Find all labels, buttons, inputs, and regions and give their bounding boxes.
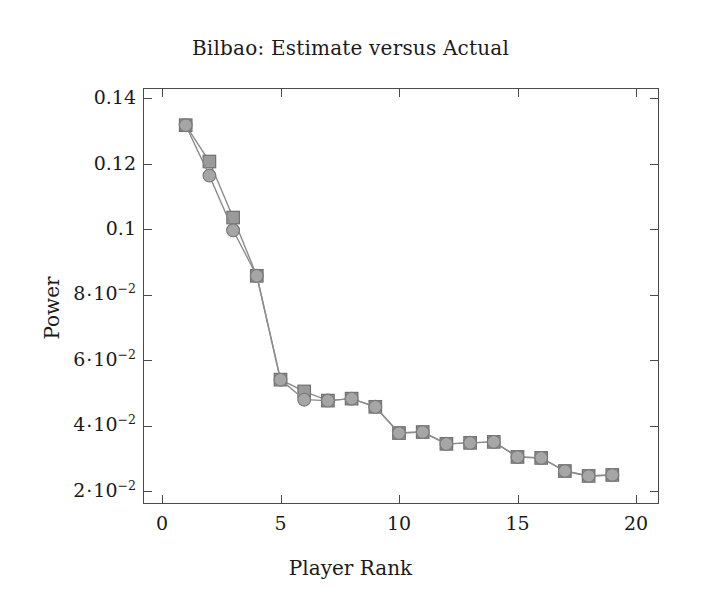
chart-title: Bilbao: Estimate versus Actual (0, 36, 701, 60)
series-line (186, 125, 613, 476)
y-axis-title: Power (40, 248, 64, 368)
data-series-layer (143, 88, 659, 504)
data-point-circle (511, 451, 524, 464)
data-point-circle (250, 269, 263, 282)
data-point-circle (582, 470, 595, 483)
x-axis-title: Player Rank (0, 556, 701, 580)
data-point-circle (487, 435, 500, 448)
data-point-circle (345, 392, 358, 405)
data-point-circle (298, 393, 311, 406)
data-point-circle (559, 465, 572, 478)
series-line (186, 125, 613, 476)
data-point-circle (393, 427, 406, 440)
data-point-circle (369, 400, 382, 413)
series-estimate (179, 119, 618, 483)
data-point-circle (227, 224, 240, 237)
data-point-circle (606, 469, 619, 482)
data-point-circle (274, 373, 287, 386)
chart-figure: Bilbao: Estimate versus Actual 0.140.120… (0, 0, 701, 615)
data-point-circle (322, 394, 335, 407)
data-point-circle (203, 169, 216, 182)
data-point-circle (440, 437, 453, 450)
data-point-circle (464, 436, 477, 449)
data-point-circle (179, 119, 192, 132)
plot-area (143, 88, 659, 504)
data-point-circle (535, 452, 548, 465)
data-point-circle (416, 426, 429, 439)
